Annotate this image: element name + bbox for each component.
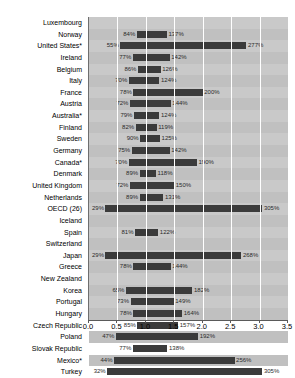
bar-row [89, 238, 288, 250]
x-tick-label: 2.0 [196, 322, 206, 331]
gridline [146, 17, 147, 320]
bar-start-value: 89% [126, 193, 140, 202]
bar-end-value: 122% [158, 228, 175, 237]
bar-row: 29%268% [89, 250, 288, 262]
bar-row: 77%142% [89, 52, 288, 64]
bar [107, 368, 262, 375]
bar [126, 287, 193, 294]
category-label: Korea [0, 285, 85, 297]
x-tick-label: 0.5 [111, 322, 121, 331]
bar-end-value: 182% [192, 286, 209, 295]
bar-row [89, 17, 288, 29]
category-label: Belgium [0, 64, 85, 76]
bar-start-value: 86% [124, 65, 138, 74]
bar-start-value: 44% [101, 356, 115, 365]
category-label: Spain [0, 227, 85, 239]
category-label: Hungary [0, 308, 85, 320]
category-label: France [0, 87, 85, 99]
bar [133, 89, 202, 96]
bar-end-value: 149% [174, 297, 191, 306]
bar-end-value: 200% [203, 88, 220, 97]
bar [114, 357, 235, 364]
x-tick-mark [116, 320, 117, 323]
bar-start-value: 90% [127, 134, 141, 143]
category-label: Mexico* [0, 355, 85, 367]
category-label: Germany [0, 145, 85, 157]
category-label: Poland [0, 331, 85, 343]
bar [133, 54, 170, 61]
bar-row [89, 273, 288, 285]
x-tick-mark [287, 320, 288, 323]
category-label: OECD (26) [0, 203, 85, 215]
bar-row: 79%124% [89, 110, 288, 122]
bar [130, 100, 171, 107]
category-label: Luxembourg [0, 17, 85, 29]
bar-start-value: 77% [119, 344, 133, 353]
x-tick-label: 3.0 [253, 322, 263, 331]
category-label: Portugal [0, 296, 85, 308]
bar-start-value: 81% [122, 228, 136, 237]
bar [129, 159, 197, 166]
bar-end-value: 190% [197, 158, 214, 167]
bar [140, 135, 160, 142]
bar-end-value: 150% [174, 181, 191, 190]
bar-end-value: 142% [170, 53, 187, 62]
bar-start-value: 78% [120, 88, 134, 97]
category-label: Switzerland [0, 238, 85, 250]
category-label: United Kingdom [0, 180, 85, 192]
bar-start-value: 77% [119, 53, 133, 62]
bar-end-value: 119% [157, 123, 173, 132]
category-label: Slovak Republic [0, 343, 85, 355]
category-label: Sweden [0, 133, 85, 145]
bar-row: 73%149% [89, 296, 288, 308]
x-tick-label: 0.0 [83, 322, 93, 331]
bar-row: 82%119% [89, 122, 288, 134]
category-label: Iceland [0, 215, 85, 227]
bar-start-value: 73% [117, 297, 131, 306]
bar [120, 42, 246, 49]
bar-start-value: 78% [120, 262, 134, 271]
bar-row: 84%137% [89, 29, 288, 41]
bar-end-value: 305% [262, 204, 279, 213]
bar-start-value: 79% [120, 111, 134, 120]
x-tick-label: 2.5 [225, 322, 235, 331]
bar-end-value: 118% [156, 169, 172, 178]
gridline [231, 17, 232, 320]
x-tick-mark [230, 320, 231, 323]
bar-start-value: 32% [94, 367, 108, 376]
bar-row: 77%138% [89, 343, 288, 355]
category-label: Finland [0, 122, 85, 134]
bar-start-value: 78% [120, 309, 134, 318]
bar-start-value: 65% [112, 286, 126, 295]
gridline [288, 17, 289, 320]
x-tick-mark [145, 320, 146, 323]
category-label: Japan [0, 250, 85, 262]
category-label: Greece [0, 261, 85, 273]
bar-row: 90%125% [89, 133, 288, 145]
bar-row: 81%122% [89, 227, 288, 239]
bar [137, 31, 167, 38]
bar-start-value: 89% [126, 169, 140, 178]
bar-row [89, 215, 288, 227]
bar-row: 78%164% [89, 308, 288, 320]
bar-row: 32%305% [89, 366, 288, 378]
bar-end-value: 142% [170, 146, 187, 155]
category-label: United States* [0, 40, 85, 52]
bar-end-value: 268% [241, 251, 258, 260]
category-label: Turkey [0, 366, 85, 378]
bar [138, 66, 161, 73]
x-tick-label: 1.0 [140, 322, 150, 331]
x-tick-mark [173, 320, 174, 323]
bar-row: 72%150% [89, 180, 288, 192]
bar-rows: 84%137%55%277%77%142%86%126%70%124%78%20… [89, 17, 288, 320]
bar [140, 170, 156, 177]
bar-start-value: 84% [123, 30, 137, 39]
bar-row: 65%182% [89, 285, 288, 297]
x-tick-mark [88, 320, 89, 323]
x-tick-mark [202, 320, 203, 323]
category-axis-labels: LuxembourgNorwayUnited States*IrelandBel… [0, 17, 85, 320]
bar-start-value: 72% [116, 181, 130, 190]
bar-row: 78%144% [89, 261, 288, 273]
category-label: Australia* [0, 110, 85, 122]
bar [105, 205, 262, 212]
